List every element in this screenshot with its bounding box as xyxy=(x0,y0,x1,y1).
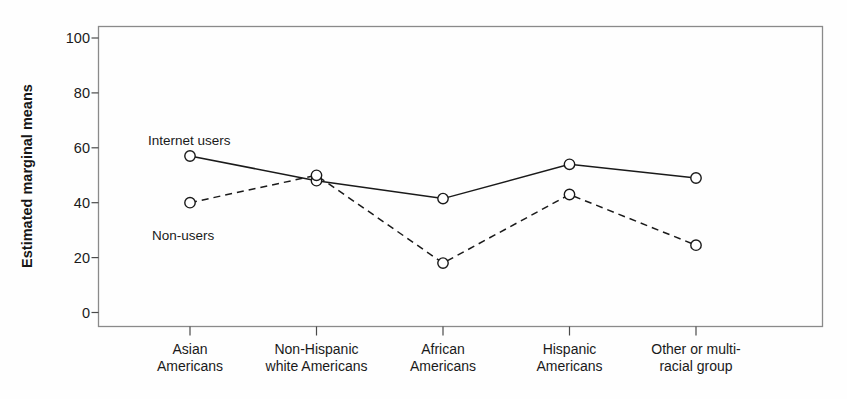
x-tick-label-line: Americans xyxy=(536,358,602,375)
data-point-2-4 xyxy=(564,189,574,199)
series-line-1 xyxy=(190,156,696,199)
x-tick-label-line: Americans xyxy=(157,358,223,375)
data-point-2-3 xyxy=(438,258,448,268)
plot-frame xyxy=(99,27,823,327)
series-layer xyxy=(185,151,701,268)
series-line-2 xyxy=(190,175,696,263)
x-tick-marks xyxy=(190,327,696,336)
data-point-1-3 xyxy=(438,193,448,203)
x-tick-label-line: Americans xyxy=(410,358,476,375)
series-annotation-2: Non-users xyxy=(152,228,214,243)
x-tick-label-line: Non-Hispanic xyxy=(266,341,368,358)
x-tick-label-4: HispanicAmericans xyxy=(536,341,602,375)
data-point-1-5 xyxy=(691,173,701,183)
x-tick-label-3: AfricanAmericans xyxy=(410,341,476,375)
x-tick-label-1: AsianAmericans xyxy=(157,341,223,375)
x-tick-label-line: racial group xyxy=(651,358,740,375)
chart-figure: Estimated marginal means 100 80 60 40 20… xyxy=(0,0,847,399)
x-tick-label-line: Asian xyxy=(157,341,223,358)
x-tick-label-5: Other or multi-racial group xyxy=(651,341,740,375)
data-point-2-1 xyxy=(185,198,195,208)
data-point-1-4 xyxy=(564,159,574,169)
x-tick-label-line: white Americans xyxy=(266,358,368,375)
y-tick-marks xyxy=(92,38,99,313)
data-point-2-5 xyxy=(691,240,701,250)
plot-area xyxy=(0,0,847,399)
series-1 xyxy=(185,151,701,204)
series-annotation-1: Internet users xyxy=(148,133,231,148)
data-point-2-2 xyxy=(311,170,321,180)
data-point-1-1 xyxy=(185,151,195,161)
x-tick-label-line: Hispanic xyxy=(536,341,602,358)
x-tick-label-2: Non-Hispanicwhite Americans xyxy=(266,341,368,375)
x-tick-label-line: Other or multi- xyxy=(651,341,740,358)
x-tick-label-line: African xyxy=(410,341,476,358)
series-2 xyxy=(185,170,701,268)
